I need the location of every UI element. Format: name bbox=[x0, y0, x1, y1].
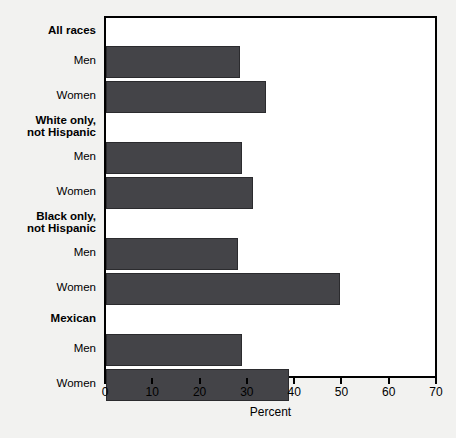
x-tick-3 bbox=[246, 378, 248, 384]
x-tick-label-2: 20 bbox=[180, 385, 220, 399]
x-tick-0 bbox=[104, 378, 106, 384]
series-label-2: Men bbox=[74, 150, 96, 163]
x-axis-title: Percent bbox=[104, 405, 437, 419]
group-label-2: Black only, not Hispanic bbox=[27, 210, 96, 235]
x-tick-7 bbox=[435, 378, 437, 384]
bar bbox=[106, 334, 242, 366]
bar bbox=[106, 81, 266, 113]
plot-area bbox=[104, 16, 437, 378]
bars-layer bbox=[106, 18, 435, 376]
x-tick-2 bbox=[199, 378, 201, 384]
series-label-5: Women bbox=[57, 281, 96, 294]
series-label-4: Men bbox=[74, 246, 96, 259]
x-tick-6 bbox=[388, 378, 390, 384]
group-label-3: Mexican bbox=[51, 312, 96, 325]
x-tick-label-0: 0 bbox=[85, 385, 125, 399]
x-tick-label-4: 40 bbox=[274, 385, 314, 399]
group-label-1: White only, not Hispanic bbox=[27, 114, 96, 139]
x-tick-label-1: 10 bbox=[132, 385, 172, 399]
x-tick-4 bbox=[293, 378, 295, 384]
series-label-3: Women bbox=[57, 185, 96, 198]
series-label-0: Men bbox=[74, 54, 96, 67]
x-tick-5 bbox=[340, 378, 342, 384]
bar bbox=[106, 142, 242, 174]
bar bbox=[106, 177, 253, 209]
bar bbox=[106, 46, 240, 78]
bar-chart: All racesMenWomenWhite only, not Hispani… bbox=[0, 0, 456, 438]
group-label-0: All races bbox=[48, 24, 96, 37]
x-tick-1 bbox=[151, 378, 153, 384]
series-label-6: Men bbox=[74, 342, 96, 355]
category-label-column: All racesMenWomenWhite only, not Hispani… bbox=[0, 0, 100, 438]
series-label-1: Women bbox=[57, 89, 96, 102]
x-tick-label-3: 30 bbox=[227, 385, 267, 399]
x-tick-label-7: 70 bbox=[416, 385, 456, 399]
x-tick-label-6: 60 bbox=[369, 385, 409, 399]
x-tick-label-5: 50 bbox=[321, 385, 361, 399]
bar bbox=[106, 238, 238, 270]
bar bbox=[106, 273, 340, 305]
